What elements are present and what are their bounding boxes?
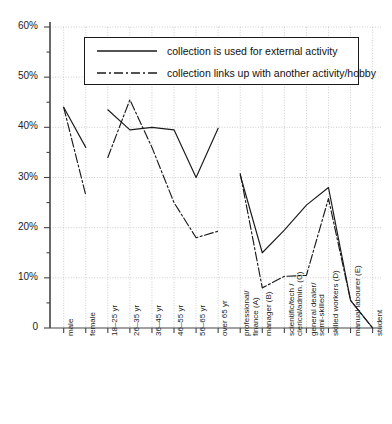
legend-entry-linked-activity: collection links up with another activit… bbox=[85, 62, 358, 84]
chart-container: 60%50%40%30%20%10%0 malefemale18–25 yr26… bbox=[0, 0, 392, 424]
x-axis-tick-label: manager (B) bbox=[265, 292, 274, 336]
legend-label-linked-activity: collection links up with another activit… bbox=[167, 66, 376, 80]
x-axis-tick-label: 36–45 yr bbox=[155, 305, 164, 336]
legend-entry-external-activity: collection is used for external activity bbox=[85, 40, 358, 62]
legend-line-sample-solid bbox=[95, 40, 159, 62]
x-axis-tick-label: student bbox=[376, 310, 385, 336]
x-axis-tick-label: male bbox=[67, 319, 76, 336]
x-axis-tick-label: manual labourer (E) bbox=[354, 265, 363, 336]
x-axis-tick-label: clerical/admin. (C) bbox=[296, 272, 305, 336]
x-axis-tick-label: 26–35 yr bbox=[133, 305, 142, 336]
x-axis-tick-label: 18–25 yr bbox=[111, 305, 120, 336]
x-axis-tick-label: semi-skilled bbox=[318, 294, 327, 336]
x-axis-tick-label: skilled workers (D) bbox=[332, 270, 341, 336]
x-axis-tick-label: over 65 yr bbox=[221, 300, 230, 336]
x-axis-tick-label: 56–65 yr bbox=[199, 305, 208, 336]
chart-legend: collection is used for external activity… bbox=[84, 37, 359, 85]
x-axis-tick-label: finance (A) bbox=[252, 297, 261, 336]
legend-line-sample-dashdot bbox=[95, 62, 159, 84]
legend-label-external-activity: collection is used for external activity bbox=[167, 44, 337, 58]
x-axis-tick-label: 46–55 yr bbox=[177, 305, 186, 336]
x-axis-tick-label: female bbox=[89, 312, 98, 336]
